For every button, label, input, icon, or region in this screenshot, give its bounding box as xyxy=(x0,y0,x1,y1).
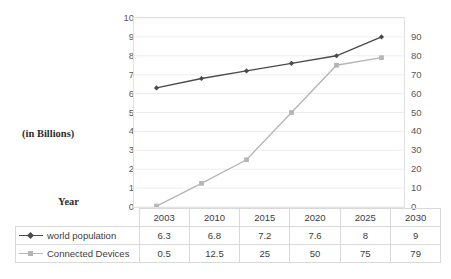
data-point-marker xyxy=(334,53,339,58)
y-right-tick: 20 xyxy=(411,164,422,174)
column-header-year: 2003 xyxy=(139,209,189,227)
column-header-year: 2030 xyxy=(390,209,440,227)
table-cell-value: 9 xyxy=(390,227,440,245)
column-header-year: 2025 xyxy=(340,209,390,227)
table-cell-value: 79 xyxy=(390,245,440,263)
legend-square-marker-icon xyxy=(19,249,43,258)
table-row: Connected Devices0.512.525507579 xyxy=(16,245,441,263)
legend-diamond-marker-icon xyxy=(19,231,43,240)
data-point-marker xyxy=(379,34,384,39)
legend-label: Connected Devices xyxy=(47,248,129,260)
legend-marker xyxy=(27,232,34,239)
legend-entry[interactable]: world population xyxy=(16,227,140,245)
table-cell-value: 50 xyxy=(290,245,340,263)
data-point-marker xyxy=(154,85,159,90)
table-cell-value: 75 xyxy=(340,245,390,263)
y-right-tick: 10 xyxy=(411,183,422,193)
legend-label: world population xyxy=(47,230,116,242)
table-cell-value: 0.5 xyxy=(139,245,189,263)
x-axis-caption: Year xyxy=(58,196,79,207)
data-table: 200320102015202020252030world population… xyxy=(15,208,441,263)
column-header-year: 2015 xyxy=(240,209,290,227)
column-header-year: 2010 xyxy=(189,209,239,227)
data-point-marker xyxy=(244,157,249,162)
chart-container: (in Billions) Year 109876543210 90807060… xyxy=(0,0,451,279)
data-point-marker xyxy=(289,110,294,115)
data-point-marker xyxy=(334,63,339,68)
year-row-spacer xyxy=(16,209,140,227)
plot-svg xyxy=(134,18,404,207)
table-cell-value: 25 xyxy=(240,245,290,263)
data-point-marker xyxy=(154,204,159,207)
y-right-tick: 30 xyxy=(411,145,422,155)
y-right-tick: 40 xyxy=(411,126,422,136)
data-point-marker xyxy=(289,61,294,66)
data-point-marker xyxy=(244,68,249,73)
plot-area xyxy=(133,17,405,208)
data-point-marker xyxy=(379,55,384,60)
series-line xyxy=(157,37,382,88)
legend-marker xyxy=(28,251,33,256)
legend-entry[interactable]: Connected Devices xyxy=(16,245,140,263)
column-header-year: 2020 xyxy=(290,209,340,227)
table-row: world population6.36.87.27.689 xyxy=(16,227,441,245)
table-cell-value: 7.2 xyxy=(240,227,290,245)
table-cell-value: 6.3 xyxy=(139,227,189,245)
table-cell-value: 8 xyxy=(340,227,390,245)
table-cell-value: 7.6 xyxy=(290,227,340,245)
y-right-tick: 60 xyxy=(411,89,422,99)
table-row-years: 200320102015202020252030 xyxy=(16,209,441,227)
y-right-tick: 90 xyxy=(411,32,422,42)
table-cell-value: 6.8 xyxy=(189,227,239,245)
data-point-marker xyxy=(199,181,204,186)
table-cell-value: 12.5 xyxy=(189,245,239,263)
y-right-tick: 80 xyxy=(411,51,422,61)
y-right-tick: 50 xyxy=(411,108,422,118)
data-point-marker xyxy=(199,76,204,81)
y-right-tick: 70 xyxy=(411,70,422,80)
y-axis-caption: (in Billions) xyxy=(22,128,74,139)
